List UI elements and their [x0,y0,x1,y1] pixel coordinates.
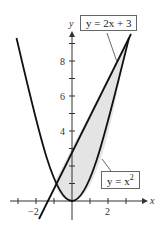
y-axis-label: y [68,18,74,29]
parabola-equation-text: y = x [107,175,130,187]
line-equation-text: y = 2x + 3 [86,17,131,29]
x-axis-arrow-icon [142,198,148,204]
x-axis-label: x [149,195,155,206]
y-tick-label-6: 6 [60,91,65,102]
line-label-leader [107,33,117,62]
parabola-exponent: 2 [130,173,134,182]
parabola-equation-label: y = x2 [101,171,140,189]
line-equation-label: y = 2x + 3 [80,15,137,31]
y-tick-label-8: 8 [60,56,65,67]
plot-area: −2 2 4 6 8 x y [0,0,161,226]
x-tick-label-2: 2 [105,206,110,217]
y-axis-arrow-icon [69,31,75,37]
parabola-label-leader [102,159,111,171]
figure: −2 2 4 6 8 x y y = 2x + 3 y = x2 [0,0,161,226]
x-tick-label-neg2: −2 [28,206,39,217]
y-tick-label-4: 4 [60,126,65,137]
